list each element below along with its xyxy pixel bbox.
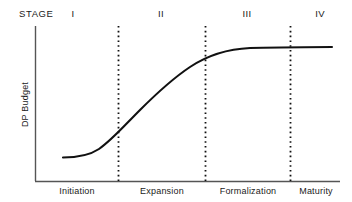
chart-canvas <box>0 0 352 202</box>
stage-name-maturity: Maturity <box>299 187 333 196</box>
stage-numeral-1: I <box>72 9 75 19</box>
s-curve-figure: STAGE I II III IV Initiation Expansion F… <box>0 0 352 202</box>
stage-name-expansion: Expansion <box>140 187 184 196</box>
dp-budget-curve <box>63 47 332 158</box>
stage-name-initiation: Initiation <box>59 187 95 196</box>
stage-title-label: STAGE <box>19 9 54 19</box>
stage-numeral-4: IV <box>315 9 325 19</box>
stage-numeral-3: III <box>243 9 252 19</box>
stage-name-formalization: Formalization <box>220 187 277 196</box>
y-axis-label: DP Budget <box>21 75 30 135</box>
stage-numeral-2: II <box>158 9 164 19</box>
